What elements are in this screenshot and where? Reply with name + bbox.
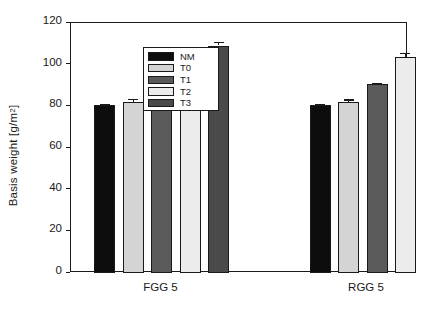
legend-swatch-t3: [148, 99, 174, 108]
y-tick-label: 60: [49, 139, 62, 151]
error-bar-cap: [344, 99, 354, 100]
bar-fgg5-nm: [94, 105, 115, 273]
error-bar-cap: [372, 83, 382, 84]
legend-entry-t2: T2: [148, 86, 214, 97]
legend-swatch-t1: [148, 76, 174, 85]
legend-entry-t0: T0: [148, 63, 214, 74]
y-tick-label: 40: [49, 181, 62, 193]
bar-chart-figure: Basis weight [g/m2] 020406080100120 NMT0…: [0, 0, 423, 311]
bar-rgg5-t1: [367, 84, 388, 273]
y-tick-label: 120: [43, 14, 62, 26]
error-bar-cap: [315, 104, 325, 105]
x-axis-group-label: RGG 5: [348, 281, 384, 293]
chart-legend: NMT0T1T2T3: [143, 47, 219, 111]
error-bar-cap: [400, 53, 410, 54]
legend-entry-t1: T1: [148, 74, 214, 85]
y-tick-label: 100: [43, 56, 62, 68]
bar-rgg5-t0: [338, 102, 359, 273]
y-axis-title: Basis weight [g/m2]: [0, 0, 26, 311]
legend-swatch-t0: [148, 64, 174, 73]
bar-fgg5-t0: [123, 102, 144, 273]
legend-entry-nm: NM: [148, 51, 214, 62]
bar-fgg5-t1: [151, 98, 172, 273]
y-axis-title-base: Basis weight [g/m: [7, 113, 19, 207]
error-bar-cap: [214, 42, 224, 43]
legend-label-t2: T2: [180, 87, 191, 97]
legend-swatch-nm: [148, 52, 174, 61]
legend-label-t1: T1: [180, 75, 191, 85]
y-tick-label: 20: [49, 222, 62, 234]
plot-area: NMT0T1T2T3: [70, 22, 407, 272]
legend-label-t3: T3: [180, 98, 191, 108]
error-bar-cap: [100, 104, 110, 105]
legend-swatch-t2: [148, 87, 174, 96]
bar-rgg5-t2: [395, 57, 416, 273]
error-bar-cap: [128, 99, 138, 100]
legend-label-nm: NM: [180, 52, 195, 62]
y-axis-title-tail: ]: [7, 105, 19, 108]
y-tick-label: 0: [56, 264, 62, 276]
y-tick-label: 80: [49, 97, 62, 109]
x-axis-group-label: FGG 5: [143, 281, 178, 293]
legend-entry-t3: T3: [148, 97, 214, 108]
legend-label-t0: T0: [180, 63, 191, 73]
bar-rgg5-nm: [310, 105, 331, 273]
